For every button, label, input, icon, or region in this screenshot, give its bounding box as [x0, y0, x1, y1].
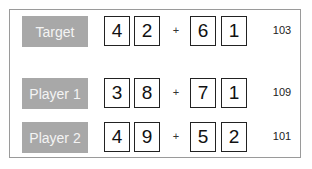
plus-sign: + — [171, 86, 181, 98]
target-label: Target — [22, 16, 88, 47]
target-digit-1: 4 — [104, 16, 130, 46]
target-row: Target 4 2 + 6 1 103 — [0, 16, 312, 48]
target-digit-4: 1 — [221, 16, 247, 46]
player-2-digit-4[interactable]: 2 — [221, 122, 247, 152]
player-2-digit-1[interactable]: 4 — [104, 122, 130, 152]
player-1-row: Player 1 3 8 + 7 1 109 — [0, 78, 312, 110]
player-1-digit-4[interactable]: 1 — [221, 78, 247, 108]
player-2-digit-2[interactable]: 9 — [134, 122, 160, 152]
target-digit-2: 2 — [134, 16, 160, 46]
player-2-digit-3[interactable]: 5 — [190, 122, 216, 152]
target-digit-3: 6 — [190, 16, 216, 46]
target-result: 103 — [270, 24, 294, 36]
player-1-digit-3[interactable]: 7 — [190, 78, 216, 108]
player-1-label: Player 1 — [22, 78, 88, 109]
player-1-result: 109 — [270, 86, 294, 98]
player-2-result: 101 — [270, 130, 294, 142]
player-1-digit-2[interactable]: 8 — [134, 78, 160, 108]
player-2-label: Player 2 — [22, 122, 88, 153]
plus-sign: + — [171, 130, 181, 142]
player-1-digit-1[interactable]: 3 — [104, 78, 130, 108]
player-2-row: Player 2 4 9 + 5 2 101 — [0, 122, 312, 154]
plus-sign: + — [171, 24, 181, 36]
